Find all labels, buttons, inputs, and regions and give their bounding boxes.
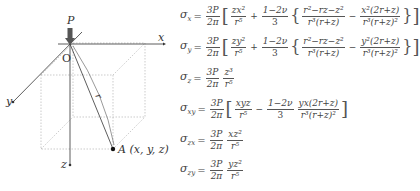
y-axis-label: y — [6, 96, 12, 107]
point-a-marker — [111, 147, 115, 151]
load-label: P — [67, 15, 74, 26]
equation-sigma-zy: σzy = 3P2π yz²r⁵ — [180, 156, 245, 184]
origin-label: O — [62, 53, 71, 64]
point-a-label: A (x, y, z) — [118, 144, 169, 155]
equation-sigma-x: σx = 3P2π [ zx²r⁵ + 1−2ν3 { r²−rz−z²r³(r… — [180, 2, 420, 30]
x-axis-label: x — [158, 32, 164, 43]
box-back-face — [73, 43, 145, 117]
coordinate-diagram — [0, 0, 170, 191]
sigma-symbol: σxy — [180, 101, 195, 116]
sigma-symbol: σzx — [180, 132, 195, 147]
sigma-symbol: σz — [180, 70, 191, 85]
z-axis-arrow-icon — [69, 164, 72, 167]
equation-sigma-xy: σxy = 3P2π [ xyzr⁵ − 1−2ν3 yx(2r+z)r³(r+… — [180, 95, 348, 123]
equation-sigma-y: σy = 3P2π [ zy²r⁵ + 1−2ν3 { r²−rz−z²r³(r… — [180, 33, 420, 61]
sigma-symbol: σx — [180, 8, 191, 23]
equation-sigma-z: σz = 3P2π z³r⁵ — [180, 64, 236, 92]
load-arrow-shaft — [68, 28, 73, 39]
z-axis-label: z — [61, 159, 67, 170]
radius-line — [70, 44, 113, 149]
sigma-symbol: σy — [180, 39, 191, 54]
equation-sigma-zx: σzx = 3P2π xz²r⁵ — [180, 126, 245, 154]
sigma-symbol: σzy — [180, 162, 195, 177]
